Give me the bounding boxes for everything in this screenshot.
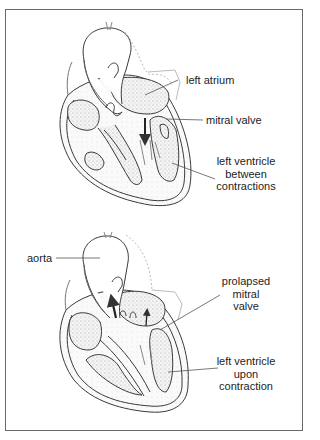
label-left-ventricle-upon-contraction: left ventricle upon contraction bbox=[214, 355, 278, 393]
label-line: between bbox=[214, 168, 278, 181]
label-line: contraction bbox=[214, 380, 278, 393]
label-line: valve bbox=[214, 300, 278, 313]
label-line: upon bbox=[214, 368, 278, 381]
heart-top-illustration bbox=[60, 22, 191, 206]
label-line: contractions bbox=[214, 180, 278, 193]
label-left-ventricle-between-contractions: left ventricle between contractions bbox=[214, 155, 278, 193]
label-prolapsed-mitral-valve: prolapsed mitral valve bbox=[214, 275, 278, 313]
label-left-atrium: left atrium bbox=[186, 74, 234, 87]
label-line: left ventricle bbox=[214, 355, 278, 368]
label-mitral-valve: mitral valve bbox=[206, 114, 262, 127]
label-line: prolapsed bbox=[214, 275, 278, 288]
label-aorta: aorta bbox=[27, 252, 52, 265]
label-line: left ventricle bbox=[214, 155, 278, 168]
label-line: mitral bbox=[214, 288, 278, 301]
heart-bottom-illustration bbox=[60, 232, 188, 412]
